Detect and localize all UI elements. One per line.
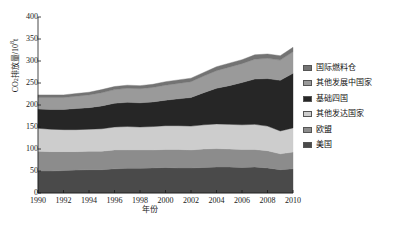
legend-swatch-icon	[303, 142, 312, 148]
legend-item[interactable]: 其他发达国家	[303, 107, 397, 123]
legend-item-label: 其他发达国家	[316, 110, 364, 118]
legend-swatch-icon	[303, 127, 312, 133]
legend-item-label: 国际燃料仓	[316, 64, 356, 72]
legend-swatch-icon	[303, 96, 312, 102]
legend-item[interactable]: 美国	[303, 138, 397, 154]
legend-item-label: 基础四国	[316, 95, 348, 103]
area-band-0	[38, 167, 293, 193]
legend-item[interactable]: 其他发展中国家	[303, 76, 397, 92]
legend-item-label: 美国	[316, 141, 332, 149]
legend-swatch-icon	[303, 80, 312, 86]
legend-item-label: 其他发展中国家	[316, 79, 372, 87]
legend-item[interactable]: 欧盟	[303, 122, 397, 138]
legend-item[interactable]: 国际燃料仓	[303, 60, 397, 76]
legend-swatch-icon	[303, 65, 312, 71]
chart-legend: 国际燃料仓其他发展中国家基础四国其他发达国家欧盟美国	[303, 60, 397, 153]
legend-item[interactable]: 基础四国	[303, 91, 397, 107]
x-axis-label: 年份	[0, 203, 300, 214]
legend-item-label: 欧盟	[316, 126, 332, 134]
legend-swatch-icon	[303, 111, 312, 117]
co2-emissions-stacked-area-chart: CO2排放量/108t 050100150200250300350400 199…	[0, 0, 397, 227]
